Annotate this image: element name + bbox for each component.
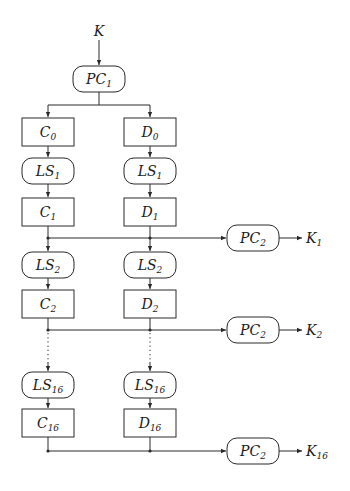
d0-register: D0: [124, 118, 176, 146]
ls2-right-node: LS2: [124, 252, 176, 278]
c0-register: C0: [22, 118, 74, 146]
pc2-node-round1: PC2: [227, 225, 279, 251]
d2-register: D2: [124, 290, 176, 318]
des-key-schedule-diagram: K PC1 C0 D0 LS1 LS1 C1 D1: [0, 0, 350, 491]
ls1-right-node: LS1: [124, 158, 176, 184]
input-key-label: K: [93, 23, 106, 39]
pc2-node-round2: PC2: [227, 317, 279, 343]
d16-register: D16: [124, 409, 176, 437]
c2-register: C2: [22, 290, 74, 318]
pc1-node: PC1: [73, 66, 125, 92]
pc2-node-round16: PC2: [227, 438, 279, 464]
c16-register: C16: [22, 409, 74, 437]
d1-register: D1: [124, 198, 176, 226]
ls16-left-node: LS16: [22, 372, 74, 398]
ls2-left-node: LS2: [22, 252, 74, 278]
ls1-left-node: LS1: [22, 158, 74, 184]
c1-register: C1: [22, 198, 74, 226]
output-k16-label: K16: [305, 443, 328, 461]
output-k2-label: K2: [305, 322, 322, 340]
ls16-right-node: LS16: [124, 372, 176, 398]
output-k1-label: K1: [305, 230, 322, 248]
